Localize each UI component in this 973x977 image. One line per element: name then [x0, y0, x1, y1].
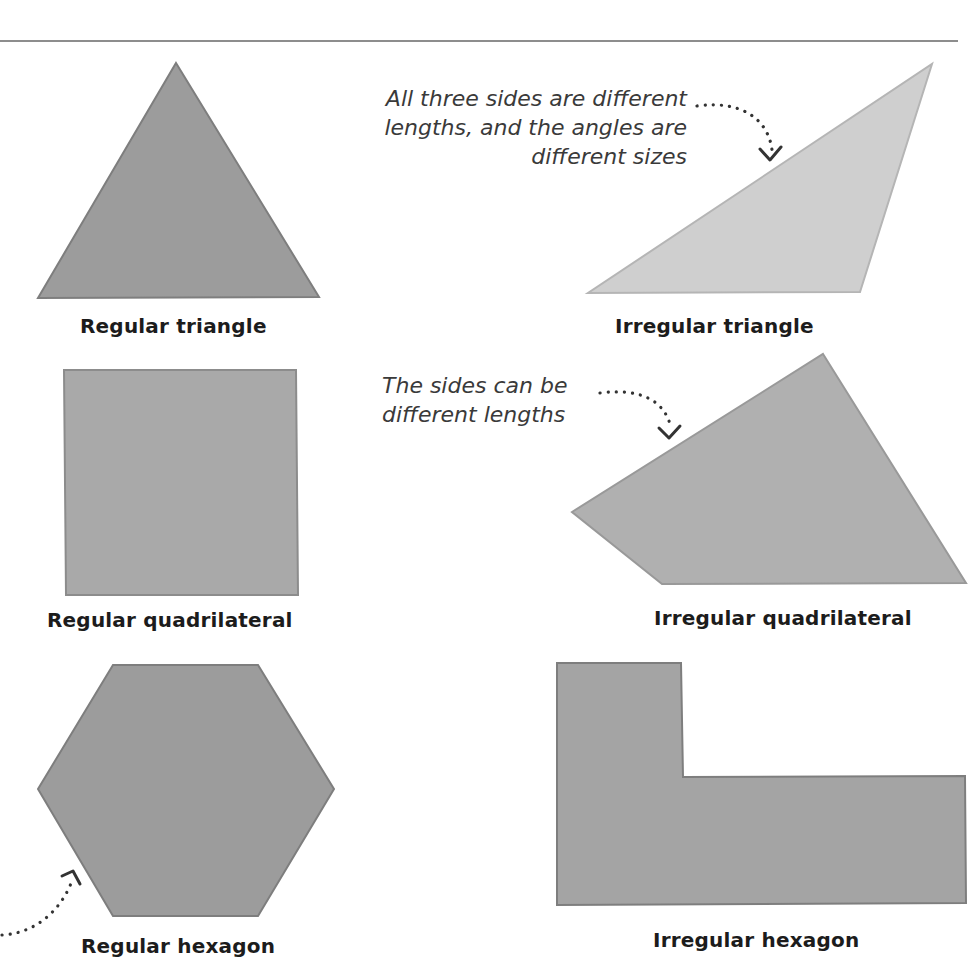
annotation-line: different lengths — [382, 400, 567, 429]
dotted-arrow-icon — [697, 105, 781, 160]
dotted-arrow-icon — [2, 871, 80, 935]
irregular-hexagon-label: Irregular hexagon — [653, 928, 859, 952]
annotation-line: All three sides are different — [335, 84, 687, 113]
annotation-line: lengths, and the angles are — [335, 113, 687, 142]
regular-triangle-label: Regular triangle — [80, 314, 267, 338]
regular-triangle-shape — [38, 63, 319, 298]
irregular-hexagon-shape — [557, 663, 966, 905]
irregular-quadrilateral-label: Irregular quadrilateral — [654, 606, 912, 630]
regular-quadrilateral-shape — [64, 370, 298, 595]
regular-quadrilateral-label: Regular quadrilateral — [47, 608, 293, 632]
annotation-line: different sizes — [335, 142, 687, 171]
irregular-triangle-annotation: All three sides are different lengths, a… — [335, 84, 687, 171]
annotation-line: The sides can be — [382, 371, 567, 400]
regular-hexagon-shape — [38, 665, 334, 916]
regular-hexagon-label: Regular hexagon — [81, 934, 275, 958]
irregular-quadrilateral-shape — [572, 354, 966, 584]
irregular-triangle-label: Irregular triangle — [615, 314, 814, 338]
irregular-quadrilateral-annotation: The sides can be different lengths — [382, 371, 567, 429]
dotted-arrow-icon — [600, 392, 680, 438]
